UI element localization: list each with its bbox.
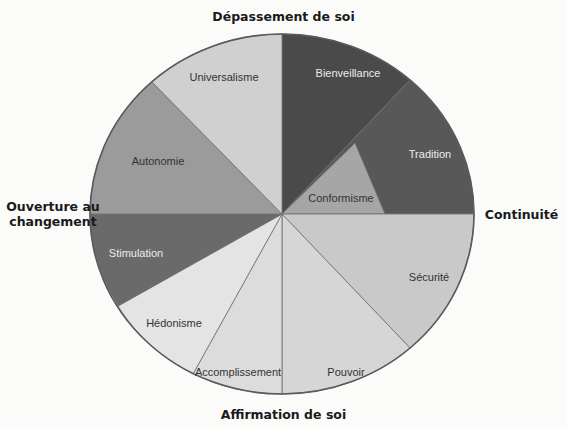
slice-label-pouvoir: Pouvoir: [327, 366, 364, 378]
axis-label-right: Continuité: [476, 207, 567, 222]
axis-label-left-line2: changement: [0, 214, 106, 229]
slice-label-autonomie: Autonomie: [132, 155, 185, 167]
axis-label-bottom: Affirmation de soi: [0, 407, 567, 422]
slice-label-hedonisme: Hédonisme: [146, 317, 202, 329]
slice-label-conformisme: Conformisme: [308, 192, 373, 204]
slice-label-bienveillance: Bienveillance: [316, 67, 381, 79]
slice-label-universalisme: Universalisme: [189, 71, 258, 83]
axis-label-left-line1: Ouverture au: [0, 199, 106, 214]
axis-label-left: Ouverture au changement: [0, 199, 106, 229]
slice-label-stimulation: Stimulation: [109, 247, 163, 259]
axis-label-top: Dépassement de soi: [0, 9, 567, 24]
slice-label-tradition: Tradition: [409, 148, 451, 160]
slice-label-accomplissement: Accomplissement: [195, 366, 281, 378]
slice-label-securite: Sécurité: [409, 271, 449, 283]
